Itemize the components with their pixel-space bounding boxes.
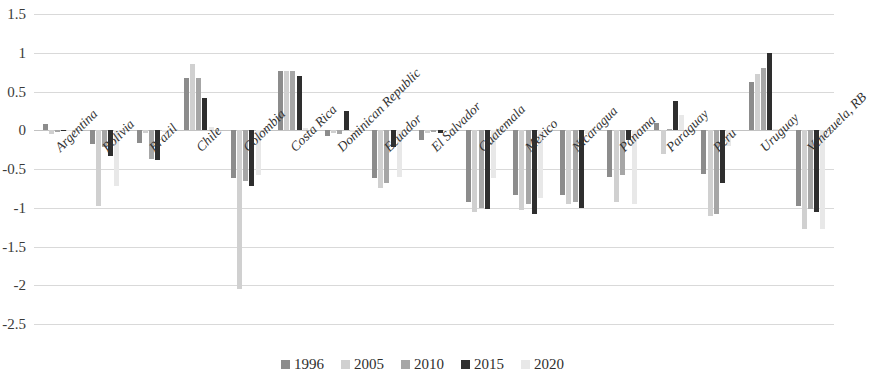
y-tick-label: -2.5 — [0, 324, 26, 325]
legend-label: 1996 — [294, 356, 324, 373]
bar-1996 — [231, 130, 236, 178]
legend-label: 2010 — [414, 356, 444, 373]
bar-2010 — [196, 78, 201, 130]
bar-2010 — [761, 68, 766, 130]
legend-label: 2005 — [354, 356, 384, 373]
gridline--2.5 — [34, 324, 834, 325]
bar-group — [458, 14, 505, 324]
bar-1996 — [372, 130, 377, 178]
y-tick-label: -1 — [0, 207, 26, 208]
y-tick-label: 1.5 — [0, 14, 26, 15]
bar-1996 — [466, 130, 471, 201]
chart-legend: 19962005201020152020 — [0, 356, 845, 373]
legend-item[interactable]: 2010 — [401, 356, 444, 373]
legend-label: 2020 — [534, 356, 564, 373]
bar-1996 — [560, 130, 565, 194]
bar-2015 — [767, 53, 772, 131]
y-tick-label: 0.5 — [0, 91, 26, 92]
legend-swatch-icon — [401, 360, 410, 369]
bar-group — [34, 14, 81, 324]
bar-group — [222, 14, 269, 324]
bar-1996 — [419, 130, 424, 139]
legend-swatch-icon — [521, 360, 530, 369]
legend-item[interactable]: 2020 — [521, 356, 564, 373]
bar-2005 — [49, 130, 54, 134]
legend-swatch-icon — [341, 360, 350, 369]
bar-2015 — [202, 98, 207, 131]
legend-item[interactable]: 2005 — [341, 356, 384, 373]
bar-1996 — [796, 130, 801, 206]
bar-1996 — [43, 124, 48, 130]
bar-group — [740, 14, 787, 324]
bar-2010 — [667, 129, 672, 131]
legend-swatch-icon — [461, 360, 470, 369]
y-tick-label: 0 — [0, 130, 26, 131]
bar-group — [552, 14, 599, 324]
bar-2010 — [431, 130, 436, 132]
bar-group — [599, 14, 646, 324]
bar-group — [81, 14, 128, 324]
bar-2005 — [378, 130, 383, 188]
bar-group — [646, 14, 693, 324]
bar-1996 — [325, 130, 330, 135]
plot-area — [34, 14, 834, 324]
y-tick-label: 1 — [0, 52, 26, 53]
bar-1996 — [513, 130, 518, 194]
bar-1996 — [90, 130, 95, 144]
bar-1996 — [749, 82, 754, 130]
bar-1996 — [137, 130, 142, 143]
y-tick-label: -2 — [0, 285, 26, 286]
bar-group — [410, 14, 457, 324]
bar-group — [175, 14, 222, 324]
bar-groups — [34, 14, 834, 324]
bar-2015 — [673, 101, 678, 130]
bar-2005 — [425, 130, 430, 133]
bar-2005 — [331, 130, 336, 132]
bar-2005 — [237, 130, 242, 289]
bar-group — [269, 14, 316, 324]
legend-swatch-icon — [281, 360, 290, 369]
bar-2005 — [190, 64, 195, 130]
bar-2015 — [297, 76, 302, 130]
bar-2015 — [344, 111, 349, 130]
bar-2005 — [755, 74, 760, 131]
bar-1996 — [701, 130, 706, 174]
bar-2005 — [143, 130, 148, 133]
bar-2010 — [55, 130, 60, 132]
bar-group — [128, 14, 175, 324]
y-tick-label: -1.5 — [0, 246, 26, 247]
bar-group — [787, 14, 834, 324]
bar-group — [316, 14, 363, 324]
bar-group — [363, 14, 410, 324]
bar-1996 — [184, 78, 189, 130]
bar-group — [505, 14, 552, 324]
y-tick-label: -0.5 — [0, 169, 26, 170]
bar-2010 — [290, 71, 295, 130]
legend-item[interactable]: 2015 — [461, 356, 504, 373]
legend-item[interactable]: 1996 — [281, 356, 324, 373]
bar-2010 — [337, 130, 342, 134]
bar-1996 — [607, 130, 612, 177]
bar-group — [693, 14, 740, 324]
legend-label: 2015 — [474, 356, 504, 373]
